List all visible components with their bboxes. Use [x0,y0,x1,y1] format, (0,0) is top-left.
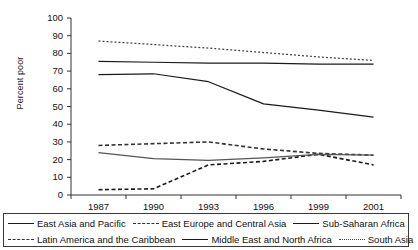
legend-line-icon [8,220,34,227]
legend-line-icon [339,236,365,243]
legend-label: Latin America and the Caribbean [34,234,182,245]
x-tick-label: 1993 [187,201,231,212]
series-line [99,61,374,64]
y-tick-label: 40 [37,118,63,129]
series-line [99,142,374,155]
legend-item-east-europe-and-central-asia[interactable]: East Europe and Central Asia [133,218,294,229]
y-tick-label: 60 [37,83,63,94]
legend-row: East Asia and Pacific East Europe and Ce… [4,215,408,231]
legend-row: Latin America and the Caribbean Middle E… [4,231,408,247]
x-tick-label: 1987 [77,201,121,212]
x-tick-label: 1999 [297,201,341,212]
series-line [99,74,374,117]
legend-line-icon [293,220,319,227]
y-tick-label: 20 [37,154,63,165]
legend-item-south-asia[interactable]: South Asia [339,234,418,245]
legend-item-east-asia-and-pacific[interactable]: East Asia and Pacific [8,218,133,229]
y-tick-label: 80 [37,47,63,58]
y-tick-label: 0 [37,189,63,200]
x-tick-label: 1996 [242,201,286,212]
legend-item-latin-america-and-the-caribbean[interactable]: Latin America and the Caribbean [8,234,182,245]
legend-label: South Asia [365,234,418,245]
x-tick-label: 1990 [132,201,176,212]
plot-region: Percent poor 100908070605040302010019871… [0,0,412,212]
series-line [99,41,374,60]
y-tick-label: 100 [37,12,63,23]
chart-legend: East Asia and Pacific East Europe and Ce… [3,213,409,247]
x-tick-label: 2001 [352,201,396,212]
y-tick-label: 70 [37,65,63,76]
legend-label: East Asia and Pacific [34,218,133,229]
y-tick-label: 10 [37,171,63,182]
legend-line-icon [182,236,208,243]
legend-item-sub-saharan-africa[interactable]: Sub-Saharan Africa [293,218,411,229]
legend-label: Sub-Saharan Africa [319,218,411,229]
legend-item-middle-east-and-north-africa[interactable]: Middle East and North Africa [182,234,338,245]
legend-line-icon [8,236,34,243]
y-tick-label: 90 [37,30,63,41]
legend-label: East Europe and Central Asia [159,218,294,229]
legend-label: Middle East and North Africa [208,234,338,245]
y-tick-label: 50 [37,101,63,112]
y-tick-label: 30 [37,136,63,147]
legend-line-icon [133,220,159,227]
